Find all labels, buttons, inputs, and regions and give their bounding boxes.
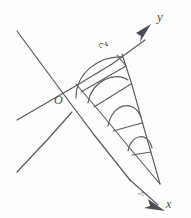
- y-axis-label: y: [157, 10, 163, 23]
- x-axis-lower-left-tail: [17, 112, 72, 172]
- y-axis-line: [17, 40, 145, 120]
- angle-arc-3: [108, 106, 141, 126]
- x-axis-label: x: [166, 198, 171, 210]
- geometry-figure: y x O 2 4: [0, 0, 191, 218]
- triangle-chord-3: [113, 123, 142, 131]
- fan-right-ray: [122, 54, 160, 184]
- x-axis-line: [17, 31, 130, 180]
- figure-canvas: [0, 0, 191, 218]
- triangle-chord-2: [94, 84, 131, 107]
- origin-label: O: [54, 94, 63, 106]
- x-arrow-arrowhead-down-right-icon: [144, 199, 165, 211]
- y-arrow-arrowhead-up-right-icon: [136, 24, 151, 42]
